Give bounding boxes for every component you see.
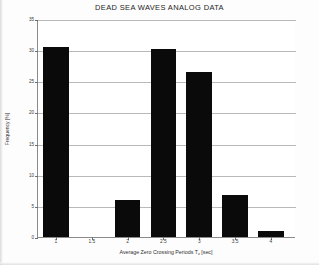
y-tick-label: 0	[31, 236, 34, 241]
bar	[43, 47, 69, 237]
y-tick-label: 5	[31, 205, 34, 210]
y-tick-label: 25	[29, 80, 34, 85]
x-tick-label: 1.5	[88, 240, 95, 245]
y-tick-mark	[35, 51, 38, 52]
y-tick-mark	[35, 113, 38, 114]
x-axis-title: Average Zero Crossing Periods Tz [sec]	[37, 249, 295, 255]
x-tick-label: 4	[270, 240, 273, 245]
bar	[151, 49, 177, 237]
y-tick-mark	[35, 82, 38, 83]
x-tick-label: 3.5	[232, 240, 239, 245]
x-tick-label: 1	[55, 240, 58, 245]
y-tick-mark	[35, 176, 38, 177]
y-tick-label: 20	[29, 111, 34, 116]
x-axis-title-main: Average Zero Crossing Periods T	[120, 249, 198, 255]
bar	[186, 72, 212, 237]
scan-edge-left	[0, 0, 3, 265]
y-tick-label: 10	[29, 173, 34, 178]
y-tick-label: 30	[29, 49, 34, 54]
y-tick-mark	[35, 207, 38, 208]
gridline	[38, 20, 296, 21]
x-axis-title-unit: [sec]	[200, 249, 213, 255]
y-tick-mark	[35, 238, 38, 239]
x-axis-title-subscript: z	[198, 252, 200, 256]
y-tick-mark	[35, 145, 38, 146]
bar	[258, 231, 284, 237]
y-tick-label: 35	[29, 18, 34, 23]
y-tick-mark	[35, 20, 38, 21]
chart-title: DEAD SEA WAVES ANALOG DATA	[0, 3, 319, 12]
scanned-page: DEAD SEA WAVES ANALOG DATA 0510152025303…	[0, 0, 319, 265]
y-tick-label: 15	[29, 142, 34, 147]
x-tick-label: 3	[198, 240, 201, 245]
bar	[222, 195, 248, 237]
x-tick-label: 2	[126, 240, 129, 245]
plot-area: 05101520253035 11.522.533.54	[37, 20, 295, 238]
bar	[115, 200, 141, 237]
x-tick-label: 2.5	[160, 240, 167, 245]
y-axis-title: Frequency [%]	[4, 113, 10, 145]
